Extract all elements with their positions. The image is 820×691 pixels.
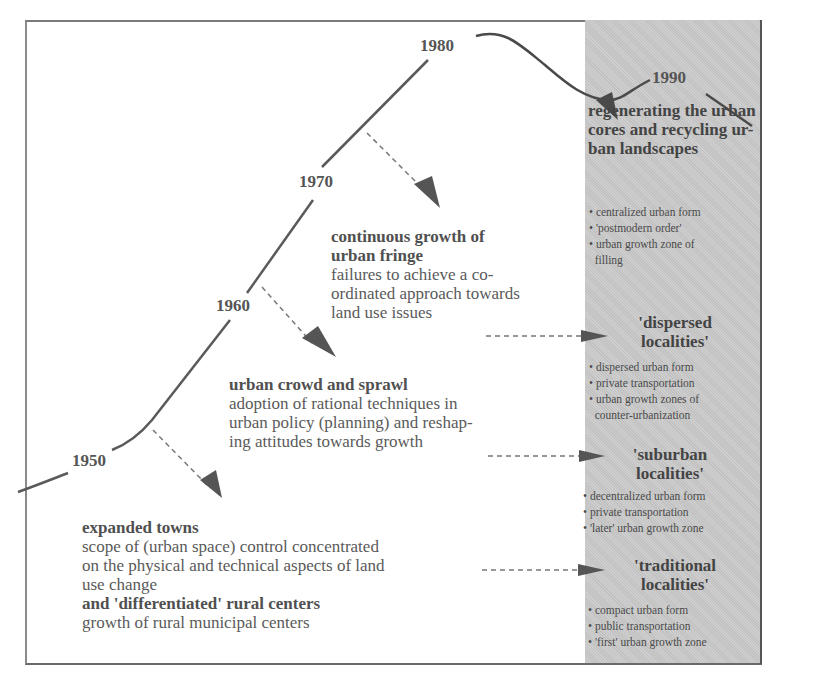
traditional-title-line-2: localities' (600, 575, 750, 594)
bullet-item: filling (589, 252, 701, 268)
regenerating-title-line-3: ban landscapes (588, 139, 756, 158)
bullet-item: • private transportation (589, 375, 699, 391)
stage-1970-line-1: failures to achieve a co- (331, 265, 520, 284)
stage-1970-heading-line-1: continuous growth of (331, 227, 520, 246)
stage-1950-line-4: growth of rural municipal centers (82, 613, 385, 632)
year-label-1960: 1960 (216, 296, 250, 316)
dispersed-title-line-2: localities' (600, 332, 750, 351)
stage-1950-line-3: use change (82, 575, 385, 594)
stage-1960-block: urban crowd and sprawl adoption of ratio… (229, 375, 473, 451)
bullet-item: • 'postmodern order' (589, 220, 701, 236)
stage-1950-block: expanded towns scope of (urban space) co… (82, 518, 385, 632)
bullet-item: • compact urban form (588, 602, 707, 618)
bullet-item: • 'first' urban growth zone (588, 634, 707, 650)
traditional-title: 'traditional localities' (600, 556, 750, 594)
bullet-item: • private transportation (583, 504, 705, 520)
bullet-item: • dispersed urban form (589, 359, 699, 375)
year-label-1970: 1970 (299, 172, 333, 192)
stage-1970-line-3: land use issues (331, 303, 520, 322)
bullet-item: • urban growth zone of (589, 236, 701, 252)
stage-1970-block: continuous growth of urban fringe failur… (331, 227, 520, 322)
bullet-item: • centralized urban form (589, 204, 701, 220)
year-label-1950: 1950 (72, 451, 106, 471)
stage-1960-line-3: ing attitudes towards growth (229, 432, 473, 451)
dispersed-bullets: • dispersed urban form • private transpo… (589, 359, 699, 423)
stage-1960-line-1: adoption of rational techniques in (229, 394, 473, 413)
stage-1960-heading: urban crowd and sprawl (229, 375, 473, 394)
dispersed-title-line-1: 'dispersed (600, 313, 750, 332)
regenerating-title: regenerating the urban cores and recycli… (588, 101, 756, 158)
stage-1950-line-2: on the physical and technical aspects of… (82, 556, 385, 575)
traditional-bullets: • compact urban form • public transporta… (588, 602, 707, 650)
regenerating-title-line-1: regenerating the urban (588, 101, 756, 120)
year-label-1980: 1980 (420, 36, 454, 56)
stage-1970-heading-line-2: urban fringe (331, 246, 520, 265)
bullet-item: • urban growth zones of (589, 391, 699, 407)
suburban-title-line-1: 'suburban (595, 445, 745, 464)
dispersed-title: 'dispersed localities' (600, 313, 750, 351)
bullet-item: counter-urbanization (589, 407, 699, 423)
stage-1950-heading-2: and 'differentiated' rural centers (82, 594, 385, 613)
suburban-title-line-2: localities' (595, 464, 745, 483)
suburban-title: 'suburban localities' (595, 445, 745, 483)
bullet-item: • decentralized urban form (583, 488, 705, 504)
year-label-1990: 1990 (652, 68, 686, 88)
traditional-title-line-1: 'traditional (600, 556, 750, 575)
stage-1950-line-1: scope of (urban space) control concentra… (82, 537, 385, 556)
bullet-item: • 'later' urban growth zone (583, 520, 705, 536)
regenerating-bullets: • centralized urban form • 'postmodern o… (589, 204, 701, 268)
stage-1970-line-2: ordinated approach towards (331, 284, 520, 303)
stage-1960-line-2: urban policy (planning) and reshap- (229, 413, 473, 432)
bullet-item: • public transportation (588, 618, 707, 634)
regenerating-title-line-2: cores and recycling ur- (588, 120, 756, 139)
stage-1950-heading: expanded towns (82, 518, 385, 537)
suburban-bullets: • decentralized urban form • private tra… (583, 488, 705, 536)
